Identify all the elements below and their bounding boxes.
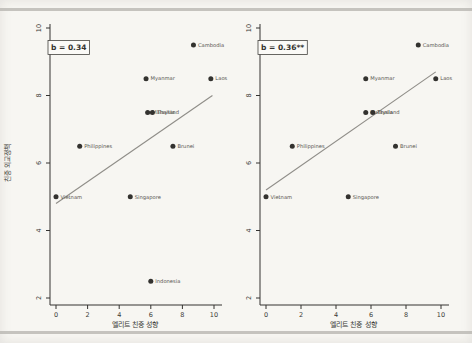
x-tick-label: 2 <box>86 311 90 319</box>
y-tick-label: 2 <box>35 296 43 300</box>
point-label-myanmar: Myanmar <box>370 75 395 82</box>
point-label-brunei: Brunei <box>177 143 194 149</box>
scatter-point-malaysia <box>363 110 368 115</box>
x-tick-label: 6 <box>369 311 373 319</box>
coefficient-text: b = 0.34 <box>51 43 86 52</box>
x-tick-label: 0 <box>264 311 268 319</box>
x-tick-label: 0 <box>54 311 58 319</box>
y-tick-label: 2 <box>245 296 253 300</box>
panels-container: VietnamPhilippinesSingaporeMyanmarMalays… <box>0 0 472 343</box>
point-label-philippines: Philippines <box>84 143 112 150</box>
scatter-point-philippines <box>77 144 82 149</box>
scatter-point-indonesia <box>148 279 153 284</box>
y-tick-label: 4 <box>245 228 253 232</box>
scatter-panel-right: VietnamPhilippinesSingaporeMyanmarMalays… <box>236 0 472 343</box>
y-tick-label: 8 <box>245 93 253 97</box>
scatter-point-thailand <box>150 110 155 115</box>
point-label-thailand: Thailand <box>376 109 399 115</box>
scatter-figure: VietnamPhilippinesSingaporeMyanmarMalays… <box>0 0 472 343</box>
point-label-philippines: Philippines <box>297 143 325 150</box>
scatter-point-vietnam <box>54 194 59 199</box>
point-label-singapore: Singapore <box>135 194 161 201</box>
point-label-singapore: Singapore <box>353 194 379 201</box>
scatter-point-singapore <box>346 194 351 199</box>
x-tick-label: 10 <box>210 311 218 319</box>
y-tick-label: 6 <box>245 161 253 165</box>
x-tick-label: 8 <box>180 311 184 319</box>
point-label-indonesia: Indonesia <box>155 278 180 284</box>
scatter-point-singapore <box>128 194 133 199</box>
regression-line <box>56 96 212 204</box>
point-label-laos: Laos <box>440 75 452 81</box>
y-tick-label: 6 <box>35 161 43 165</box>
scatter-point-philippines <box>290 144 295 149</box>
x-tick-label: 6 <box>149 311 153 319</box>
coefficient-text: b = 0.36** <box>261 43 304 52</box>
y-axis-title: 친중 외교정책 <box>3 144 12 182</box>
scatter-point-myanmar <box>363 76 368 81</box>
scatter-point-vietnam <box>264 194 269 199</box>
scatter-point-cambodia <box>191 42 196 47</box>
y-tick-label: 10 <box>35 24 43 32</box>
x-tick-label: 10 <box>437 311 445 319</box>
x-tick-label: 8 <box>404 311 408 319</box>
y-tick-label: 8 <box>35 93 43 97</box>
x-axis-title: 엘리트 친중 성향 <box>112 320 159 329</box>
scan-bottom-rule <box>0 331 472 334</box>
x-tick-label: 4 <box>117 311 121 319</box>
point-label-myanmar: Myanmar <box>151 75 176 82</box>
scatter-point-myanmar <box>144 76 149 81</box>
scatter-point-brunei <box>170 144 175 149</box>
x-tick-label: 2 <box>299 311 303 319</box>
scatter-point-brunei <box>393 144 398 149</box>
point-label-laos: Laos <box>215 75 227 81</box>
point-label-brunei: Brunei <box>400 143 417 149</box>
x-axis-title: 엘리트 친중 성향 <box>330 320 377 329</box>
regression-line <box>266 72 436 190</box>
point-label-cambodia: Cambodia <box>198 42 224 48</box>
scatter-point-laos <box>433 76 438 81</box>
point-label-cambodia: Cambodia <box>423 42 449 48</box>
point-label-thailand: Thailand <box>156 109 179 115</box>
scatter-point-cambodia <box>416 42 421 47</box>
x-tick-label: 4 <box>334 311 338 319</box>
point-label-vietnam: Vietnam <box>61 194 83 200</box>
point-label-vietnam: Vietnam <box>271 194 293 200</box>
scatter-panel-left: VietnamPhilippinesSingaporeMyanmarMalays… <box>0 0 236 343</box>
scatter-point-laos <box>208 76 213 81</box>
y-tick-label: 4 <box>35 228 43 232</box>
scatter-point-thailand <box>370 110 375 115</box>
scatter-point-malaysia <box>145 110 150 115</box>
y-tick-label: 10 <box>245 24 253 32</box>
